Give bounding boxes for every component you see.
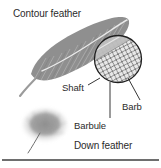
down-feather-illustration	[22, 108, 68, 153]
barb-leader	[128, 78, 140, 100]
horizontal-rule	[2, 159, 159, 161]
label-contour-feather: Contour feather	[13, 8, 81, 19]
feather-diagram: Contour feather Shaft Barb Barbule Down …	[0, 0, 161, 168]
label-shaft: Shaft	[62, 82, 84, 93]
label-barbule: Barbule	[74, 120, 106, 131]
label-down-feather: Down feather	[74, 140, 132, 151]
label-barb: Barb	[122, 101, 142, 112]
leader-lines	[88, 78, 140, 118]
shaft-leader	[88, 78, 100, 85]
